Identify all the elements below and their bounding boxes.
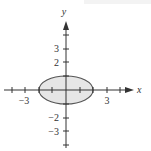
x-tick-label-neg3: −3 <box>19 95 30 106</box>
y-tick-label-2: 2 <box>54 57 59 68</box>
y-axis-arrow-icon <box>63 21 69 30</box>
x-axis-label: x <box>136 84 142 95</box>
ellipse-diagram: y x −3 3 3 2 −2 −3 <box>0 0 151 151</box>
y-axis-label: y <box>61 6 67 17</box>
y-tick-label-3: 3 <box>54 43 59 54</box>
y-tick-label-neg3: −3 <box>48 126 59 137</box>
y-tick-label-neg2: −2 <box>48 112 59 123</box>
x-axis-arrow-icon <box>125 87 134 93</box>
x-tick-label-pos3: 3 <box>105 95 110 106</box>
